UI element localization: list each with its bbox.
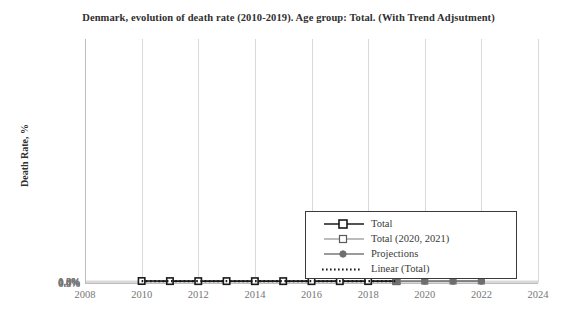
chart-container: Denmark, evolution of death rate (2010-2… [0, 0, 577, 319]
legend-label-total: Total [366, 218, 392, 229]
legend-item-linear-total[interactable]: Linear (Total) [306, 261, 516, 276]
legend-swatch-total [322, 217, 366, 231]
legend-label-total-2020-2021: Total (2020, 2021) [366, 233, 449, 244]
legend-swatch-total-2020-2021 [322, 232, 366, 246]
legend-item-total-2020-2021[interactable]: Total (2020, 2021) [306, 231, 516, 246]
legend-swatch-linear-total [322, 262, 366, 276]
legend-label-linear-total: Linear (Total) [366, 263, 429, 274]
legend-swatch-projections [322, 247, 366, 261]
chart-legend: Total Total (2020, 2021) Projections [305, 211, 517, 279]
legend-item-projections[interactable]: Projections [306, 246, 516, 261]
legend-label-projections: Projections [366, 248, 418, 259]
legend-item-total[interactable]: Total [306, 216, 516, 231]
